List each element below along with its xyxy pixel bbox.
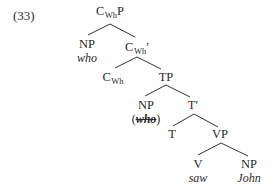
node-v-label: V	[189, 158, 208, 171]
node-cwh-bar-label: CWh′	[125, 41, 149, 55]
node-obj-np-label: NP	[237, 158, 260, 171]
node-cwhp-label: CWhP	[96, 5, 124, 19]
node-tp-label: TP	[159, 71, 174, 84]
node-t-label: T	[168, 128, 176, 141]
branch-cwhp-np	[88, 24, 110, 35]
branch-cwhbar-tp	[137, 57, 161, 69]
node-spec-np-word: who	[77, 52, 97, 65]
branch-tp-tbar	[166, 85, 190, 97]
node-tp-spec-np: NP (who)	[132, 99, 161, 126]
branch-cwhp-cwhbar	[110, 24, 135, 37]
node-v-word: saw	[189, 172, 208, 185]
node-obj-np: NP John	[237, 158, 260, 185]
node-tp-spec-np-trace: (who)	[132, 113, 161, 126]
branch-tbar-t	[173, 114, 194, 126]
branch-tp-np	[145, 85, 166, 96]
node-cwh-head-label: CWh	[102, 71, 123, 85]
branch-tbar-vp	[194, 114, 218, 127]
node-spec-np-label: NP	[77, 38, 97, 51]
node-tp: TP	[159, 71, 174, 84]
node-cwh-head: CWh	[102, 71, 123, 85]
node-cwh-bar: CWh′	[125, 41, 149, 55]
node-obj-np-word: John	[237, 172, 260, 185]
node-vp: VP	[212, 128, 228, 141]
node-vp-label: VP	[212, 128, 228, 141]
branch-vp-np	[221, 143, 248, 156]
node-t-bar: T′	[188, 99, 198, 112]
branch-vp-v	[198, 143, 221, 155]
node-spec-np: NP who	[77, 38, 97, 65]
tree-branches	[0, 0, 277, 191]
struck-copy-who: who	[136, 112, 157, 126]
node-t-bar-label: T′	[188, 99, 198, 112]
node-t: T	[168, 128, 176, 141]
node-v: V saw	[189, 158, 208, 185]
node-tp-spec-np-label: NP	[132, 99, 161, 112]
branch-cwhbar-cwh	[115, 57, 137, 68]
node-cwhp: CWhP	[96, 5, 124, 19]
